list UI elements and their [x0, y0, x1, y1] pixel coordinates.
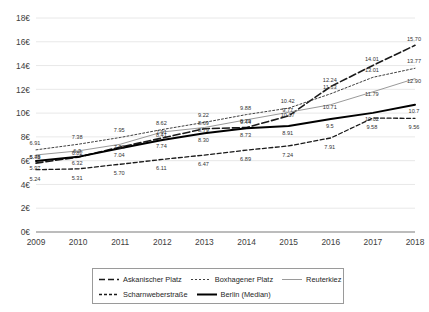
data-point-label: 11.79	[365, 91, 379, 97]
line-chart: 0€2€4€6€8€10€12€14€16€18€200920102011201…	[0, 0, 429, 248]
y-axis-tick-label: 2€	[21, 203, 31, 213]
data-point-label: 6.32	[72, 160, 83, 166]
x-axis-tick-label: 2012	[153, 237, 172, 247]
data-point-label: 6.48	[30, 154, 41, 160]
x-axis-tick-label: 2013	[195, 237, 214, 247]
data-point-label: 8.79	[198, 127, 209, 133]
legend-label: Scharnweberstraße	[123, 291, 188, 298]
data-point-label: 7.38	[114, 144, 125, 150]
data-point-label: 12.90	[407, 78, 421, 84]
data-point-label: 7.24	[282, 152, 293, 158]
x-axis-tick-label: 2018	[406, 237, 425, 247]
legend-swatch-fine-dashed-icon	[99, 291, 119, 298]
data-point-label: 11.63	[323, 84, 337, 90]
data-point-label: 7.04	[114, 152, 125, 158]
data-point-label: 7.95	[114, 127, 125, 133]
x-axis-tick-label: 2009	[27, 237, 46, 247]
x-axis-tick-label: 2010	[69, 237, 88, 247]
data-point-label: 15.70	[407, 36, 421, 42]
legend-label: Askanischer Platz	[123, 276, 182, 283]
legend-label: Berlin (Median)	[221, 291, 271, 298]
chart-page: 0€2€4€6€8€10€12€14€16€18€200920102011201…	[0, 0, 429, 312]
data-point-label: 7.91	[324, 144, 335, 150]
data-point-label: 9.88	[240, 105, 251, 111]
legend-label: Boxhagener Platz	[215, 276, 273, 283]
series-line	[36, 45, 415, 163]
data-point-label: 6.47	[198, 161, 209, 167]
data-point-label: 9.58	[366, 124, 377, 130]
legend-swatch-solid-thin-icon	[282, 276, 302, 283]
data-point-label: 7.38	[72, 134, 83, 140]
data-point-label: 10.71	[323, 104, 337, 110]
data-point-label: 6.11	[156, 165, 166, 171]
x-axis-tick-label: 2016	[321, 237, 340, 247]
data-point-label: 13.77	[407, 58, 421, 64]
data-point-label: 7.74	[156, 143, 167, 149]
data-point-label: 9.44	[240, 119, 251, 125]
y-axis-tick-label: 12€	[16, 85, 30, 95]
data-point-label: 6.91	[30, 140, 41, 146]
data-point-label: 12.24	[323, 77, 337, 83]
series-line	[36, 68, 415, 150]
x-axis-tick-label: 2011	[111, 237, 129, 247]
y-axis-tick-label: 14€	[16, 61, 30, 71]
data-point-label: 8.69	[198, 120, 209, 126]
data-point-label: 10.02	[365, 116, 379, 122]
chart-legend: Askanischer Platz Boxhagener Platz Reute…	[92, 268, 344, 304]
series-line	[36, 118, 415, 170]
data-point-label: 9.5	[326, 123, 334, 129]
data-point-label: 8.41	[156, 132, 167, 138]
legend-swatch-dashed-icon	[99, 276, 119, 283]
legend-item-reuterkiez: Reuterkiez	[282, 276, 341, 283]
legend-item-scharnweberstrasse: Scharnweberstraße	[99, 291, 188, 298]
data-point-label: 10.07	[281, 112, 295, 118]
legend-row-2: Scharnweberstraße Berlin (Median)	[99, 287, 337, 302]
x-axis-tick-label: 2015	[279, 237, 298, 247]
x-axis-tick-label: 2014	[237, 237, 256, 247]
data-point-label: 5.97	[30, 165, 41, 171]
legend-item-askanischer-platz: Askanischer Platz	[99, 276, 182, 283]
series-line	[36, 79, 415, 155]
x-axis-tick-label: 2017	[364, 237, 383, 247]
chart-svg: 0€2€4€6€8€10€12€14€16€18€200920102011201…	[0, 0, 429, 248]
legend-swatch-dotted-icon	[191, 276, 211, 283]
data-point-label: 8.73	[240, 132, 251, 138]
legend-row-1: Askanischer Platz Boxhagener Platz Reute…	[99, 272, 337, 287]
data-point-label: 6.89	[240, 156, 251, 162]
data-point-label: 8.62	[156, 120, 167, 126]
data-point-label: 10.7	[409, 108, 420, 114]
y-axis-tick-label: 10€	[16, 108, 30, 118]
y-axis-tick-label: 16€	[16, 37, 30, 47]
data-point-label: 5.31	[72, 175, 83, 181]
legend-label: Reuterkiez	[306, 276, 341, 283]
legend-item-boxhagener-platz: Boxhagener Platz	[191, 276, 273, 283]
y-axis-tick-label: 0€	[21, 227, 31, 237]
data-point-label: 8.91	[282, 130, 293, 136]
data-point-label: 5.24	[30, 176, 41, 182]
data-point-label: 9.56	[409, 124, 420, 130]
legend-swatch-solid-thick-icon	[197, 291, 217, 298]
y-axis-tick-label: 18€	[16, 13, 30, 23]
data-point-label: 6.82	[72, 150, 83, 156]
data-point-label: 14.01	[365, 56, 379, 62]
data-point-label: 5.70	[114, 170, 125, 176]
data-point-label: 8.30	[198, 137, 209, 143]
data-point-label: 13.01	[365, 67, 379, 73]
data-point-label: 10.42	[281, 98, 295, 104]
legend-item-berlin-median: Berlin (Median)	[197, 291, 271, 298]
data-point-label: 9.22	[198, 112, 209, 118]
